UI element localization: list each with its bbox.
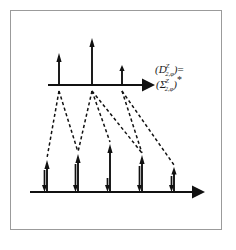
dashed-connector-5 <box>122 91 142 153</box>
bottom-impulse-up-0-head <box>44 160 49 169</box>
dashed-connector-2 <box>78 91 92 152</box>
top-impulse-0 <box>56 53 61 85</box>
bottom-impulse-up-2-head <box>107 144 112 153</box>
bottom-impulse-up-4-head <box>171 167 176 175</box>
dashed-connector-6 <box>122 91 174 165</box>
top-impulse-2 <box>119 65 124 85</box>
top-impulse-2-head <box>119 65 124 71</box>
figure-root: (DZ2,φ)= (ΣZ2,φ)* <box>0 0 236 250</box>
dashed-connector-3 <box>92 91 110 142</box>
top-impulse-1-head <box>89 38 94 47</box>
bottom-impulse-group <box>42 144 177 192</box>
dashed-connector-4 <box>92 91 142 153</box>
dashed-connector-1 <box>59 91 78 152</box>
bottom-impulse-up-1-head <box>75 154 80 163</box>
bottom-impulse-up-3-head <box>139 155 144 164</box>
top-impulse-group <box>56 38 124 85</box>
top-impulse-0-head <box>56 53 61 62</box>
figure-canvas <box>0 0 236 250</box>
top-impulse-1 <box>89 38 94 85</box>
dashed-connector-0 <box>47 91 59 158</box>
